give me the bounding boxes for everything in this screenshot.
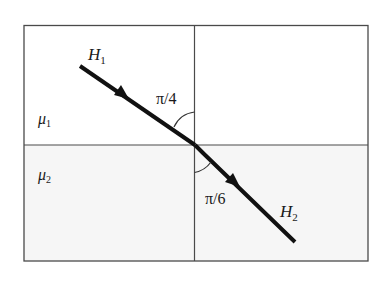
- lower-medium-region: [24, 145, 368, 261]
- upper-medium-region: [24, 25, 368, 145]
- refraction-diagram: H1 H2 μ1 μ2 π/4 π/6: [0, 0, 388, 284]
- incident-angle-label: π/4: [156, 90, 177, 107]
- refracted-angle-label: π/6: [205, 190, 226, 207]
